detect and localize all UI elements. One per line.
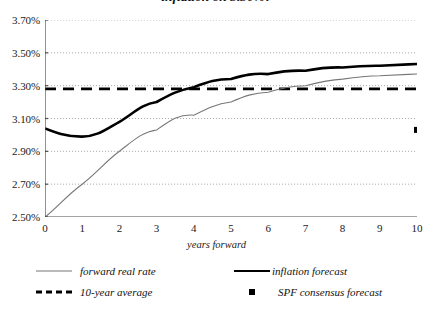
chart-title-clipped: inflation on 3.30%? [0,0,433,5]
x-tick-label: 1 [79,222,85,234]
y-tick-label: 2.90% [0,145,40,157]
spf-consensus-marker [414,127,417,133]
chart-container: inflation on 3.30%? [0,0,433,310]
x-tick-label: 7 [303,222,309,234]
legend-label: forward real rate [80,265,156,277]
x-tick-label: 0 [42,222,48,234]
legend-item-spf-consensus-forecast: SPF consensus forecast [234,283,429,300]
chart-legend: forward real rate 10-year average inflat… [0,262,433,306]
legend-item-inflation-forecast: inflation forecast [234,262,429,279]
legend-label: 10-year average [80,286,152,298]
x-tick-label: 8 [340,222,346,234]
thin-line-icon [36,270,72,271]
y-tick-label: 3.70% [0,14,40,26]
legend-label: inflation forecast [272,265,347,277]
x-tick-label: 2 [117,222,123,234]
legend-label: SPF consensus forecast [278,286,382,298]
dashed-line-icon [36,290,72,293]
series-forward-real-rate [45,74,417,217]
series-inflation-forecast [45,64,417,137]
x-tick-label: 4 [191,222,197,234]
legend-item-ten-year-average: 10-year average [36,283,226,300]
legend-item-forward-real-rate: forward real rate [36,262,226,279]
y-tick-label: 3.30% [0,80,40,92]
square-marker-icon [249,289,255,295]
x-tick-label: 10 [412,222,423,234]
thick-line-icon [234,270,270,272]
y-tick-label: 2.70% [0,178,40,190]
page-title: inflation on 3.30%? [0,0,433,5]
x-tick-label: 3 [154,222,160,234]
y-tick-label: 2.50% [0,211,40,223]
x-tick-label: 5 [228,222,234,234]
plot-area [45,20,417,217]
y-tick-label: 3.10% [0,113,40,125]
y-tick-label: 3.50% [0,47,40,59]
x-tick-label: 6 [265,222,271,234]
x-tick-label: 9 [377,222,383,234]
x-axis-title: years forward [0,239,433,250]
